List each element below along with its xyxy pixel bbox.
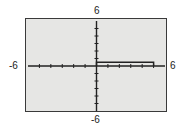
x-min-label: -6 <box>9 61 18 71</box>
y-max-label: 6 <box>94 6 100 16</box>
plot-area <box>0 0 183 125</box>
x-max-label: 6 <box>170 61 176 71</box>
y-min-label: -6 <box>91 115 100 125</box>
